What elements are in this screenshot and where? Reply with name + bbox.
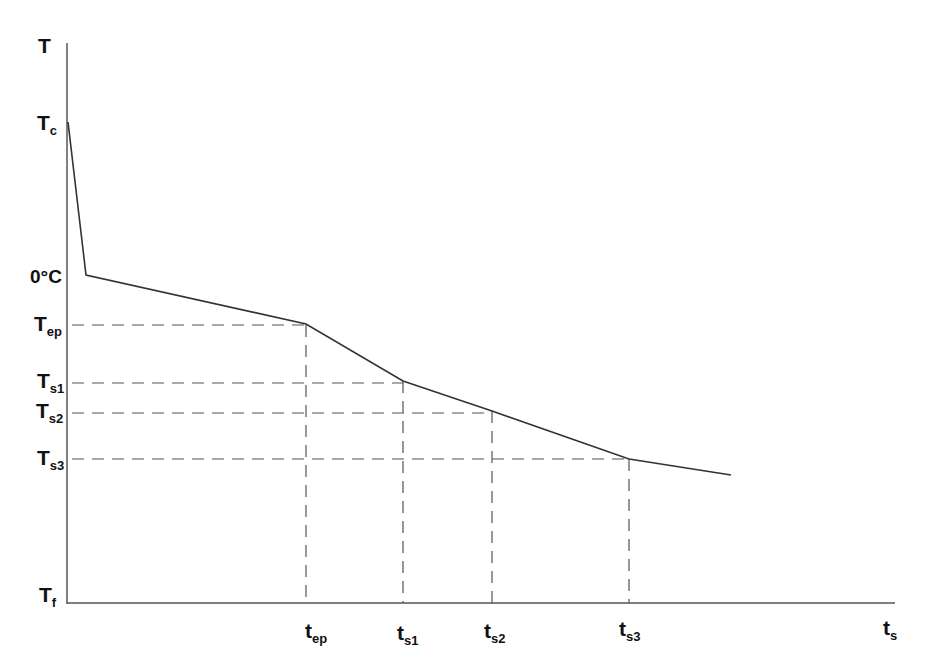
zero-celsius-label: 0°C [30, 267, 62, 286]
ts1-y-label: Ts1 [37, 370, 64, 395]
ts2-x-label: ts2 [484, 620, 505, 645]
tep-x-label: tep [305, 620, 327, 645]
ts3-y-label: Ts3 [37, 447, 64, 472]
x-axis-label: ts [883, 617, 897, 642]
ts2-y-label: Ts2 [36, 400, 63, 425]
ts3-x-label: ts3 [619, 618, 640, 643]
tf-y-label: Tf [39, 584, 56, 609]
diagram-canvas [0, 0, 927, 664]
tc-label: Tc [37, 112, 57, 137]
y-axis-label: T [38, 35, 51, 56]
cooling-curve [68, 122, 731, 475]
tep-y-label: Tep [34, 313, 62, 338]
ts1-x-label: ts1 [397, 622, 418, 647]
